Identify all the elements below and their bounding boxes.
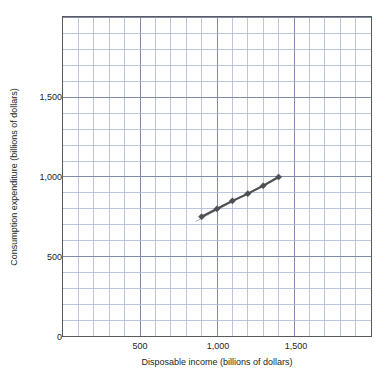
y-tick-label-1500: 1,500 <box>39 92 62 103</box>
x-axis-title: Disposable income (billions of dollars) <box>62 357 372 368</box>
consumption-function-chart: Consumption expenditure (billions of dol… <box>0 0 392 384</box>
plot-area <box>62 16 372 337</box>
y-tick-label-500: 500 <box>47 252 62 263</box>
data-series-layer <box>63 17 371 336</box>
x-tick-label-500: 500 <box>132 341 147 352</box>
series-line <box>202 177 279 217</box>
y-axis-title: Consumption expenditure (billions of dol… <box>8 16 20 337</box>
x-tick-label-1000: 1,000 <box>207 341 230 352</box>
series-0 <box>195 174 281 222</box>
x-tick-label-1500: 1,500 <box>285 341 308 352</box>
y-tick-label-1000: 1,000 <box>39 172 62 183</box>
y-axis-title-text: Consumption expenditure (billions of dol… <box>8 88 20 266</box>
